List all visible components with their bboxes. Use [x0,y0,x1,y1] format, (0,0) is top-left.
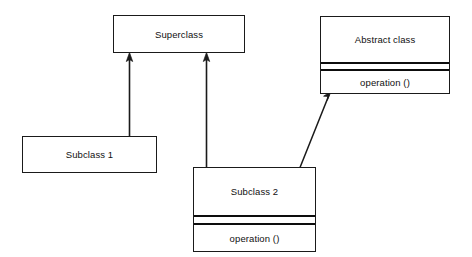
class-box-subclass-2[interactable]: Subclass 2 operation () [193,167,316,252]
generalization-subclass1-to-superclass[interactable] [126,53,132,137]
class-name-subclass-1: Subclass 1 [23,137,156,172]
relationship-line [300,95,329,168]
generalization-subclass2-to-abstract-class[interactable] [300,91,331,167]
class-name-superclass: Superclass [114,16,244,52]
class-name-abstract-class: Abstract class [321,17,449,62]
attributes-compartment-abstract-class [321,62,449,71]
class-box-abstract-class[interactable]: Abstract class operation () [320,16,450,94]
generalization-subclass2-to-superclass[interactable] [203,53,209,168]
class-box-superclass[interactable]: Superclass [113,15,245,53]
operations-compartment-abstract-class: operation () [321,71,449,93]
class-name-subclass-2: Subclass 2 [194,168,315,215]
operations-compartment-subclass-2: operation () [194,225,315,251]
uml-class-diagram-canvas: Superclass Abstract class operation () S… [0,0,472,257]
class-box-subclass-1[interactable]: Subclass 1 [22,136,157,173]
attributes-compartment-subclass-2 [194,215,315,225]
